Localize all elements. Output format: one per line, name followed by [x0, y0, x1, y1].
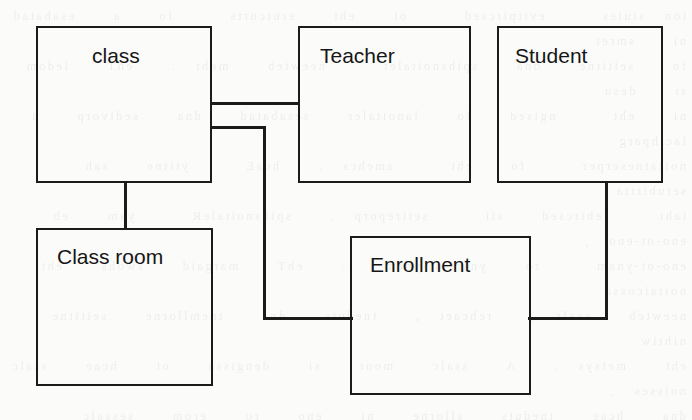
- er-diagram-canvas: ton stutes evitpircsed ot eht erutcurts …: [0, 0, 692, 420]
- connector-student-enrollment-segment-h: [528, 317, 608, 320]
- entity-label-class-room: Class room: [57, 246, 163, 267]
- entity-label-student: Student: [515, 45, 587, 66]
- connector-class-classroom-segment-v: [124, 181, 127, 230]
- entity-label-class: class: [92, 45, 140, 66]
- connector-class-enrollment-segment-h2: [263, 317, 353, 320]
- entity-label-enrollment: Enrollment: [370, 254, 470, 275]
- connector-class-teacher-segment-h: [210, 102, 300, 105]
- connector-class-enrollment-segment-v: [263, 126, 266, 320]
- connector-class-enrollment-segment-h1: [210, 126, 265, 129]
- connector-student-enrollment-segment-v: [605, 181, 608, 320]
- entity-label-teacher: Teacher: [320, 45, 395, 66]
